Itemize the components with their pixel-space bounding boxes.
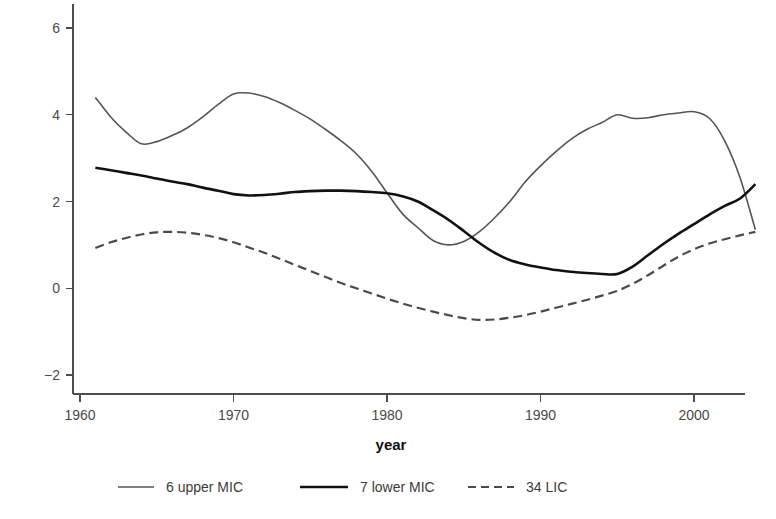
y-tick-label: 0	[52, 280, 60, 296]
legend-label-2: 34 LIC	[526, 479, 567, 495]
x-tick-label: 1960	[64, 407, 95, 423]
x-tick-group: 19601970198019902000	[64, 394, 709, 423]
y-axis-group: −20246	[44, 4, 73, 394]
y-tick-label: 2	[52, 194, 60, 210]
series-line-0	[95, 93, 755, 245]
x-tick-label: 2000	[678, 407, 709, 423]
x-axis-title: year	[376, 436, 407, 453]
series-line-1	[95, 168, 755, 275]
line-chart-canvas: −20246 19601970198019902000 year 6 upper…	[0, 0, 776, 519]
x-axis-group: 19601970198019902000	[64, 394, 745, 423]
chart-figure: −20246 19601970198019902000 year 6 upper…	[0, 0, 776, 519]
legend-label-0: 6 upper MIC	[166, 479, 243, 495]
y-tick-label: −2	[44, 367, 60, 383]
x-tick-label: 1970	[218, 407, 249, 423]
x-tick-label: 1980	[371, 407, 402, 423]
x-tick-label: 1990	[525, 407, 556, 423]
chart-legend: 6 upper MIC7 lower MIC34 LIC	[118, 479, 567, 495]
y-tick-label: 6	[52, 20, 60, 36]
y-tick-group: −20246	[44, 20, 73, 383]
series-line-2	[95, 232, 755, 320]
y-tick-label: 4	[52, 107, 60, 123]
legend-label-1: 7 lower MIC	[360, 479, 435, 495]
series-group	[95, 93, 755, 320]
